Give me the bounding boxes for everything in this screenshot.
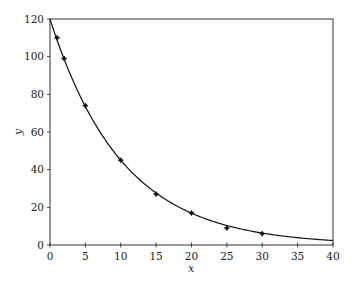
chart: 0510152025303540 020406080100120 x y: [0, 0, 354, 288]
y-axis-label: y: [12, 128, 25, 136]
fit-line: [50, 19, 333, 241]
fit-curve: [50, 19, 333, 241]
y-tick-label: 120: [24, 13, 44, 25]
x-tick-label: 30: [256, 250, 269, 262]
y-tick-label: 20: [31, 201, 44, 213]
data-point-marker: [62, 56, 67, 61]
x-tick-label: 10: [114, 250, 127, 262]
x-tick-label: 0: [47, 250, 54, 262]
x-axis-label: x: [188, 262, 195, 275]
x-tick-label: 5: [82, 250, 89, 262]
x-tick-label: 20: [185, 250, 198, 262]
data-point-marker: [189, 210, 194, 215]
x-tick-label: 15: [149, 250, 162, 262]
chart-canvas: 0510152025303540 020406080100120 x y: [0, 0, 354, 288]
x-tick-label: 25: [220, 250, 233, 262]
y-tick-label: 40: [31, 163, 44, 175]
x-tick-label: 35: [291, 250, 304, 262]
y-axis: 020406080100120: [24, 13, 50, 251]
y-tick-label: 100: [24, 50, 44, 62]
data-points: [54, 35, 264, 236]
y-tick-label: 80: [31, 88, 44, 100]
y-tick-label: 60: [31, 126, 44, 138]
data-point-marker: [260, 231, 265, 236]
y-tick-label: 0: [37, 239, 44, 251]
x-tick-label: 40: [326, 250, 339, 262]
